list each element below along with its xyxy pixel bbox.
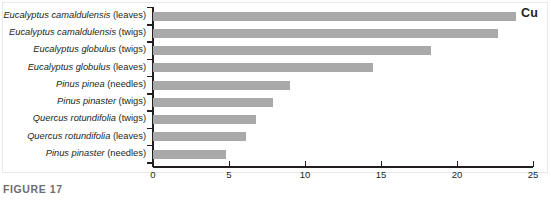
bar: [153, 115, 256, 124]
category-label: Quercus rotundifolia (twigs): [0, 114, 146, 123]
x-axis-line: [153, 166, 533, 168]
species-name: Quercus rotundifolia: [33, 113, 116, 123]
bar: [153, 29, 498, 38]
y-axis-tick: [147, 59, 153, 61]
x-axis-tick-label: 15: [369, 170, 393, 180]
x-axis-tick: [305, 161, 306, 167]
bar: [153, 63, 373, 72]
species-name: Pinus pinea: [56, 79, 105, 89]
x-axis-tick: [457, 161, 458, 167]
x-axis-tick: [229, 161, 230, 167]
bar: [153, 98, 273, 107]
x-axis-tick-label: 0: [141, 170, 165, 180]
y-axis-tick: [147, 76, 153, 78]
x-axis-tick: [533, 161, 534, 167]
plant-part: (twigs): [116, 27, 146, 37]
species-name: Pinus pinaster: [46, 148, 105, 158]
category-label: Eucalyptus globulus (leaves): [0, 63, 146, 72]
plant-part: (needles): [105, 148, 146, 158]
category-label: Eucalyptus globulus (twigs): [0, 45, 146, 54]
category-label: Eucalyptus camaldulensis (leaves): [0, 11, 146, 20]
plant-part: (twigs): [116, 113, 146, 123]
plant-part: (twigs): [116, 44, 146, 54]
bar: [153, 46, 431, 55]
x-axis-tick-label: 25: [521, 170, 545, 180]
x-axis-tick-label: 5: [217, 170, 241, 180]
species-name: Pinus pinaster: [57, 96, 116, 106]
species-name: Eucalyptus camaldulensis: [3, 10, 110, 20]
x-axis-tick-label: 10: [293, 170, 317, 180]
category-label: Pinus pinaster (needles): [0, 149, 146, 158]
bar-chart: Eucalyptus camaldulensis (leaves)Eucalyp…: [0, 0, 551, 205]
figure-caption: FIGURE 17: [3, 184, 63, 195]
species-name: Eucalyptus globulus: [33, 44, 116, 54]
category-label: Quercus rotundifolia (leaves): [0, 132, 146, 141]
category-label: Pinus pinea (needles): [0, 80, 146, 89]
x-axis-tick: [381, 161, 382, 167]
species-name: Eucalyptus globulus: [28, 62, 111, 72]
y-axis-tick: [147, 110, 153, 112]
category-label: Eucalyptus camaldulensis (twigs): [0, 28, 146, 37]
plant-part: (leaves): [110, 62, 146, 72]
y-axis-tick: [147, 145, 153, 147]
category-label: Pinus pinaster (twigs): [0, 97, 146, 106]
bar: [153, 132, 246, 141]
species-name: Quercus rotundifolia: [27, 131, 110, 141]
bar: [153, 150, 226, 159]
figure-17: Eucalyptus camaldulensis (leaves)Eucalyp…: [0, 0, 551, 205]
plant-part: (leaves): [110, 131, 146, 141]
plant-part: (twigs): [116, 96, 146, 106]
y-axis-tick: [147, 7, 153, 9]
bar: [153, 12, 516, 21]
bar: [153, 81, 290, 90]
x-axis-tick: [153, 161, 154, 167]
y-axis-tick: [147, 128, 153, 130]
plant-part: (leaves): [110, 10, 146, 20]
x-axis-tick-label: 20: [445, 170, 469, 180]
series-label-cu: Cu: [521, 7, 538, 20]
species-name: Eucalyptus camaldulensis: [9, 27, 116, 37]
y-axis-tick: [147, 41, 153, 43]
y-axis-tick: [147, 93, 153, 95]
plant-part: (needles): [105, 79, 146, 89]
y-axis-tick: [147, 24, 153, 26]
